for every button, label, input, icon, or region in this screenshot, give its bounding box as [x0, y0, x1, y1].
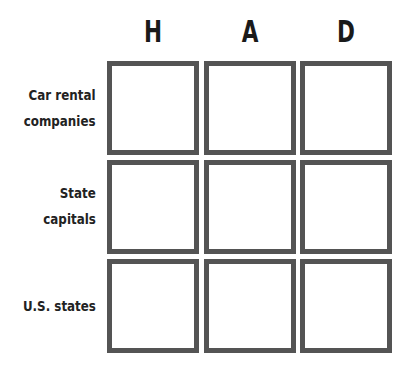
row-label-line: companies — [24, 108, 96, 134]
row-label-state-capitals: State capitals — [43, 180, 96, 232]
cell-car-rental-d[interactable] — [300, 61, 392, 155]
row-label-us-states: U.S. states — [23, 293, 96, 319]
row-label-line: U.S. states — [23, 293, 96, 319]
cell-us-states-h[interactable] — [107, 259, 199, 353]
column-header-a: A — [217, 14, 283, 50]
row-label-car-rental-companies: Car rental companies — [24, 82, 96, 134]
cell-state-capitals-d[interactable] — [300, 160, 392, 254]
column-header-h: H — [120, 14, 186, 50]
cell-car-rental-a[interactable] — [204, 61, 296, 155]
cell-us-states-d[interactable] — [300, 259, 392, 353]
cell-us-states-a[interactable] — [204, 259, 296, 353]
row-label-line: Car rental — [24, 82, 96, 108]
column-header-d: D — [313, 14, 379, 50]
cell-state-capitals-h[interactable] — [107, 160, 199, 254]
cell-state-capitals-a[interactable] — [204, 160, 296, 254]
row-label-line: capitals — [43, 206, 96, 232]
row-label-line: State — [43, 180, 96, 206]
cell-car-rental-h[interactable] — [107, 61, 199, 155]
